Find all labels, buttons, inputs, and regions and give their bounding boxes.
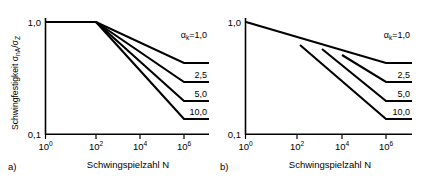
y-tick-label-a-0: 1,0	[28, 17, 41, 28]
x-tick-label-b-1: 102	[290, 140, 305, 152]
series-label-b-2: 5,0	[397, 89, 410, 99]
x-axis-title-b: Schwingspielzahl N	[289, 159, 372, 170]
x-tick-label-b-0: 100	[238, 140, 253, 152]
y-axis-title-a: Schwingfestigkeit σnA/σZ	[10, 36, 21, 130]
chart-panel-a: 1,0 0,1 100 102 104 106 Schwingspielzahl…	[0, 0, 211, 180]
panel-label-a: a)	[8, 161, 16, 172]
series-label-a-2: 5,0	[194, 89, 207, 99]
x-tick-label-a-3: 106	[177, 140, 192, 152]
y-tick-label-b-0: 1,0	[228, 17, 241, 28]
x-tick-label-a-1: 102	[89, 140, 104, 152]
series-label-a-3: 10,0	[189, 107, 207, 117]
x-tick-label-b-2: 104	[335, 140, 350, 152]
chart-panel-b: 1,0 0,1 100 102 104 106 Schwingspielzahl…	[212, 0, 423, 180]
series-label-b-3: 10,0	[392, 107, 410, 117]
x-tick-label-a-0: 100	[38, 140, 53, 152]
series-label-a-1: 2,5	[194, 70, 207, 80]
x-axis-title-a: Schwingspielzahl N	[87, 159, 170, 170]
series-label-a-0: αk=1,0	[181, 30, 207, 41]
curve-b-series-0	[246, 22, 412, 63]
series-label-b-1: 2,5	[397, 70, 410, 80]
y-tick-label-a-1: 0,1	[28, 129, 41, 140]
figure-container: 1,0 0,1 100 102 104 106 Schwingspielzahl…	[0, 0, 423, 180]
series-label-b-0: αk=1,0	[384, 30, 410, 41]
x-tick-label-a-2: 104	[133, 140, 148, 152]
y-tick-label-b-1: 0,1	[228, 129, 241, 140]
panel-label-b: b)	[220, 161, 228, 172]
chart-svg-a: 1,0 0,1 100 102 104 106 Schwingspielzahl…	[0, 0, 211, 180]
chart-svg-b: 1,0 0,1 100 102 104 106 Schwingspielzahl…	[212, 0, 423, 180]
x-tick-label-b-3: 106	[379, 140, 394, 152]
